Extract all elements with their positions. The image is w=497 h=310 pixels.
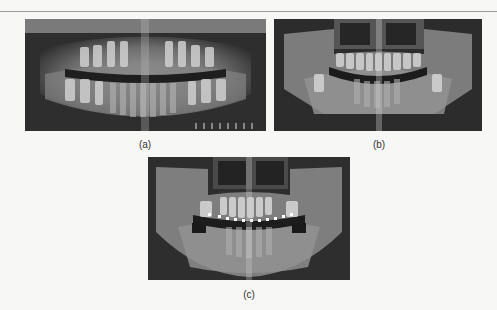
xray-panel-c xyxy=(148,157,350,280)
panoramic-xray-image-b xyxy=(274,19,482,131)
top-rule xyxy=(0,11,497,12)
panel-label-c: (c) xyxy=(229,289,269,300)
panoramic-xray-image-a xyxy=(25,19,266,131)
xray-panel-a xyxy=(25,19,266,131)
panoramic-xray-image-c xyxy=(148,157,350,280)
panel-label-b: (b) xyxy=(359,139,399,150)
panel-label-a: (a) xyxy=(125,139,165,150)
xray-panel-b xyxy=(274,19,482,131)
